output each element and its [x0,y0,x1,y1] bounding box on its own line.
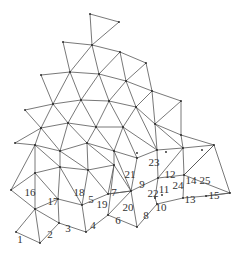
mesh-edge [81,74,99,100]
mesh-edge [114,151,137,158]
mesh-node [107,193,109,195]
mesh-edge [87,143,114,165]
node-label: 25 [200,174,212,186]
mesh-edge [35,167,60,173]
node-label: 2 [47,228,53,240]
mesh-node [119,51,121,53]
node-label: 4 [90,219,96,231]
mesh-edge [120,52,146,63]
node-label: 10 [156,201,168,213]
mesh-edge [41,72,70,75]
mesh-edge [87,127,96,143]
node-label: 14 [186,174,198,186]
mesh-node [130,190,132,192]
mesh-node [113,164,115,166]
mesh-node [213,144,215,146]
mesh-edge [92,45,99,74]
mesh-edge [108,215,137,227]
mesh-node [229,192,231,194]
mesh-edge [99,52,120,74]
mesh-edge [126,81,152,91]
node-label: 5 [88,193,94,205]
mesh-node [145,62,147,64]
mesh-node [182,147,184,149]
node-label: 16 [25,186,37,198]
mesh-edge [87,143,114,151]
mesh-edge [96,101,109,127]
mesh-edge [41,128,60,151]
node-label: 17 [48,195,60,207]
mesh-node [34,172,36,174]
node-label: 23 [149,156,161,168]
node-label: 1 [17,233,23,245]
node-label: 7 [111,186,117,198]
mesh-node [205,195,207,197]
mesh-edge [53,100,81,104]
mesh-node [98,73,100,75]
mesh-edge [25,104,53,110]
node-label: 13 [185,193,197,205]
node-label: 19 [97,198,109,210]
mesh-edge [90,14,119,22]
node-label: 9 [139,178,145,190]
node-label: 11 [159,183,170,195]
mesh-edge [152,91,155,124]
mesh-edge [214,145,230,193]
mesh-edge [126,63,146,81]
mesh-node [14,142,16,144]
mesh-edge [92,22,119,45]
mesh-edge [68,123,96,127]
mesh-edge [60,143,87,151]
mesh-node [86,142,88,144]
mesh-edge [82,205,86,232]
mesh-node [81,204,83,206]
mesh-edge [120,52,126,81]
mesh-edge [109,101,123,127]
mesh-edge [81,100,109,101]
mesh-edge [63,42,92,45]
mesh-node [154,123,156,125]
mesh-node [136,152,138,154]
mesh-node [80,99,82,101]
mesh-edge [15,128,41,143]
mesh-edge [183,145,214,148]
mesh-node [95,126,97,128]
mesh-node [122,126,124,128]
mesh-node [52,103,54,105]
mesh-edge [126,81,136,107]
mesh-edge [11,145,35,190]
mesh-edge [146,63,152,91]
mesh-edge [53,104,68,123]
mesh-node [108,100,110,102]
node-label: 20 [123,201,135,213]
mesh-edge [59,223,86,232]
mesh-edge [58,199,82,205]
mesh-edge [35,209,40,243]
mesh-edge [99,74,126,81]
mesh-node [118,21,120,23]
mesh-edge [15,143,35,145]
mesh-node [125,80,127,82]
mesh-edge [63,42,70,72]
mesh-node [136,157,138,159]
node-label: 8 [143,209,149,221]
mesh-node [157,177,159,179]
node-label: 6 [115,214,121,226]
mesh-edge [109,81,126,101]
mesh-edge [70,72,81,100]
mesh-edge [96,127,114,151]
mesh-node [136,226,138,228]
mesh-edge [152,91,181,101]
mesh-node [180,134,182,136]
mesh-node [91,44,93,46]
mesh-edge [157,148,183,150]
mesh-node [59,150,61,152]
mesh-edge [92,45,120,52]
mesh-edge [68,123,87,143]
node-label: 21 [125,168,136,180]
mesh-node [113,150,115,152]
mesh-edge [99,74,109,101]
node-label: 18 [74,186,86,198]
mesh-node [107,214,109,216]
mesh-node [40,127,42,129]
